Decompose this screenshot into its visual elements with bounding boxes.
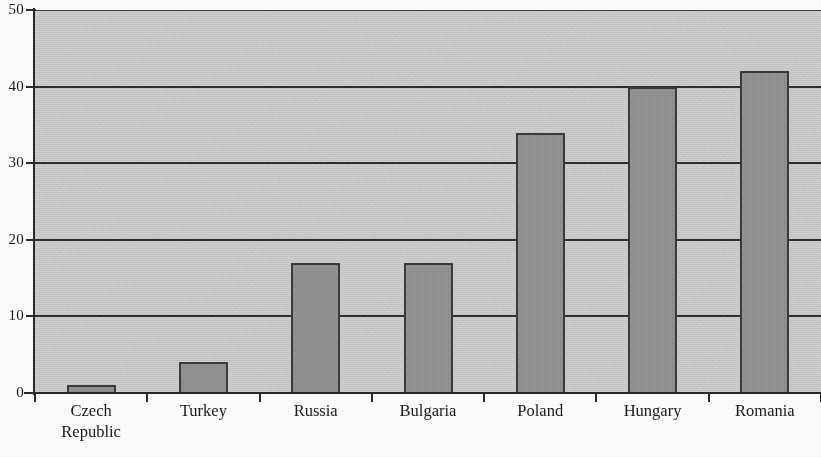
bar [404, 263, 453, 393]
bar-texture [181, 364, 226, 392]
y-tick-label: 0 [0, 384, 24, 401]
y-axis-line [33, 8, 35, 395]
y-tick-mark-40 [26, 86, 36, 88]
gridline-30 [35, 162, 821, 164]
y-tick-label: 10 [0, 307, 24, 324]
y-tick-mark-50 [26, 9, 36, 11]
bar [516, 133, 565, 393]
gridline-40 [35, 86, 821, 88]
category-label: Russia [260, 400, 372, 421]
y-tick-mark-30 [26, 162, 36, 164]
bar-texture [742, 73, 787, 392]
x-axis-line [24, 392, 821, 394]
plot-area [35, 10, 821, 393]
bar [740, 71, 789, 393]
bar [291, 263, 340, 393]
bar-texture [293, 265, 338, 392]
y-tick-label: 40 [0, 78, 24, 95]
bar [179, 362, 228, 393]
y-tick-label: 20 [0, 231, 24, 248]
y-tick-label: 30 [0, 154, 24, 171]
category-label: Bulgaria [372, 400, 484, 421]
category-label: Turkey [147, 400, 259, 421]
chart-figure: 01020304050 Czech RepublicTurkeyRussiaBu… [0, 0, 821, 457]
bar-texture [630, 89, 675, 392]
y-tick-mark-20 [26, 239, 36, 241]
category-label: Romania [709, 400, 821, 421]
y-tick-mark-10 [26, 315, 36, 317]
bar-texture [518, 135, 563, 392]
bar [628, 87, 677, 393]
gridline-50 [35, 10, 821, 11]
category-label: Czech Republic [35, 400, 147, 442]
gridline-20 [35, 239, 821, 241]
y-tick-label: 50 [0, 1, 24, 18]
category-label: Hungary [596, 400, 708, 421]
bar-texture [406, 265, 451, 392]
category-label: Poland [484, 400, 596, 421]
